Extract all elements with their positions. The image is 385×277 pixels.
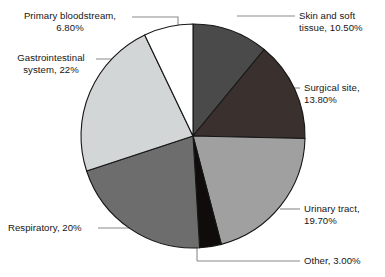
leader-line-primary-bloodstream <box>132 17 178 27</box>
slice-label-surgical-site: Surgical site, 13.80% <box>304 82 385 105</box>
pie-slices <box>81 24 305 248</box>
slice-label-respiratory: Respiratory, 20% <box>8 222 100 234</box>
slice-label-urinary-tract: Urinary tract, 19.70% <box>304 203 385 226</box>
slice-label-gastrointestinal-system: Gastrointestinal system, 22% <box>6 52 96 75</box>
slice-label-other: Other, 3.00% <box>304 255 385 267</box>
slice-label-skin-and-soft-tissue: Skin and soft tissue, 10.50% <box>299 10 385 33</box>
pie-chart-canvas <box>0 0 385 277</box>
pie-chart-figure: Primary bloodstream, 6.80% Gastrointesti… <box>0 0 385 277</box>
slice-label-primary-bloodstream: Primary bloodstream, 6.80% <box>8 10 132 33</box>
